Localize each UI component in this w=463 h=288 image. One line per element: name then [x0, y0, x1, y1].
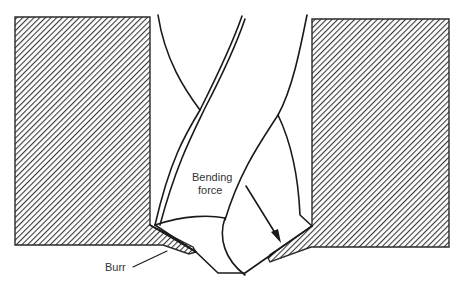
left-workpiece-block — [15, 17, 196, 254]
bending-force-arrow — [246, 186, 281, 243]
drill-burr-diagram: Bending force Burr — [0, 0, 463, 288]
bending-force-label-line1: Bending — [192, 171, 232, 183]
right-workpiece-block — [268, 19, 449, 262]
burr-label: Burr — [105, 261, 126, 273]
bending-force-label-line2: force — [198, 184, 222, 196]
burr-leader-line — [133, 251, 167, 267]
drill-bit — [155, 15, 312, 275]
